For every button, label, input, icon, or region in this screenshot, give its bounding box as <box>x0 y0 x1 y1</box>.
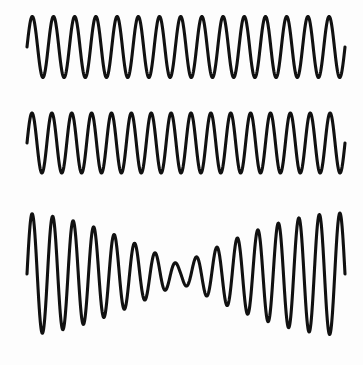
waveform-beat-sum <box>27 213 345 334</box>
waveform-second-tone <box>27 113 345 173</box>
beats-figure <box>0 0 363 365</box>
waveform-canvas <box>0 0 363 365</box>
waveform-first-tone <box>27 17 345 78</box>
